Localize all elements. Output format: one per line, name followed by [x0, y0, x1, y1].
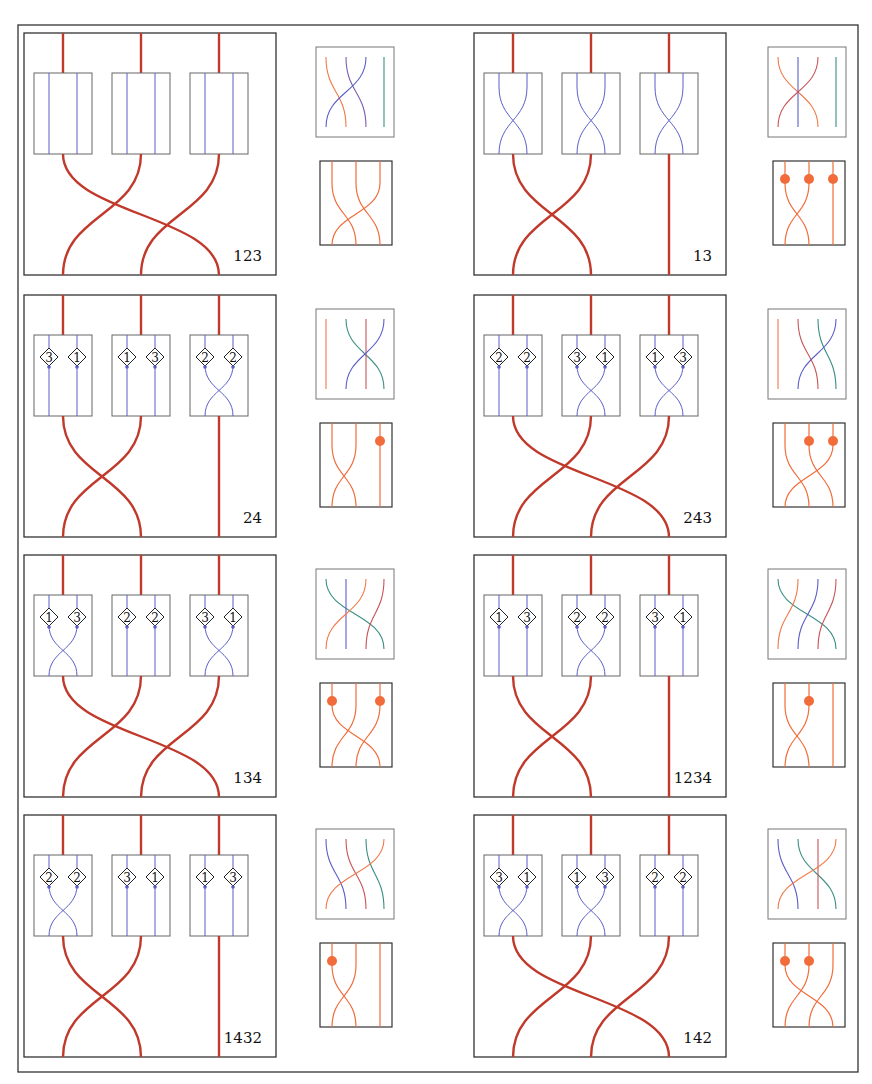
- tangle-box-border: [562, 335, 620, 416]
- tangle-box-border: [34, 595, 92, 676]
- tangle-box-border: [640, 73, 698, 154]
- badge-dot: [153, 885, 157, 889]
- tangle-box: 31: [484, 855, 542, 936]
- panel-243: 223113243: [474, 295, 846, 537]
- badge-dot: [47, 625, 51, 629]
- orange-dot-icon: [375, 696, 385, 706]
- tangle-box-border: [484, 855, 542, 936]
- badge-number: 1: [229, 611, 237, 625]
- tangle-box: 31: [640, 595, 698, 676]
- tangle-box-border: [190, 335, 248, 416]
- tangle-box-border: [34, 855, 92, 936]
- tangle-box-border: [484, 335, 542, 416]
- badge-dot: [575, 365, 579, 369]
- panel-142: 311322142: [474, 815, 846, 1057]
- tangle-box-border: [112, 595, 170, 676]
- badge-number: 3: [229, 871, 237, 885]
- tangle-box-border: [562, 855, 620, 936]
- badge-dot: [525, 885, 529, 889]
- tangle-box-border: [34, 335, 92, 416]
- panel-label: 24: [243, 509, 262, 527]
- tangle-box: 31: [34, 335, 92, 416]
- badge-number: 1: [73, 351, 81, 365]
- badge-number: 3: [201, 611, 209, 625]
- badge-dot: [497, 365, 501, 369]
- badge-dot: [125, 365, 129, 369]
- badge-number: 2: [229, 351, 237, 365]
- badge-number: 1: [523, 871, 531, 885]
- panel-24: 31132224: [24, 295, 394, 537]
- small-braid-box: [768, 47, 846, 137]
- orange-dot-icon: [804, 696, 814, 706]
- badge-number: 2: [201, 351, 209, 365]
- badge-dot: [75, 625, 79, 629]
- panel-1234: 1322311234: [474, 555, 846, 797]
- badge-dot: [525, 365, 529, 369]
- tangle-box-border: [190, 73, 248, 154]
- tangle-box-border: [562, 73, 620, 154]
- orange-dot-icon: [327, 956, 337, 966]
- badge-dot: [153, 625, 157, 629]
- tangle-box: [640, 73, 698, 154]
- tangle-box: 22: [484, 335, 542, 416]
- badge-number: 2: [651, 871, 659, 885]
- badge-dot: [203, 885, 207, 889]
- badge-number: 1: [601, 351, 609, 365]
- tangle-box: 13: [562, 855, 620, 936]
- badge-dot: [231, 885, 235, 889]
- orange-dot-icon: [780, 174, 790, 184]
- badge-number: 2: [73, 871, 81, 885]
- tangle-box-border: [562, 595, 620, 676]
- panel-label: 123: [233, 247, 262, 265]
- orange-dot-icon: [804, 436, 814, 446]
- tangle-box: [34, 73, 92, 154]
- figure-canvas: 1231331132224223113243132231134132231123…: [0, 0, 872, 1084]
- badge-number: 1: [651, 351, 659, 365]
- badge-dot: [681, 885, 685, 889]
- tangle-box: 13: [190, 855, 248, 936]
- tangle-box: [484, 73, 542, 154]
- badge-dot: [203, 365, 207, 369]
- tangle-box-border: [190, 855, 248, 936]
- panel-123: 123: [24, 33, 394, 275]
- orange-dot-icon: [804, 174, 814, 184]
- badge-dot: [575, 885, 579, 889]
- tangle-box: 22: [190, 335, 248, 416]
- tangle-box-border: [640, 595, 698, 676]
- badge-dot: [497, 885, 501, 889]
- tangle-box: 31: [562, 335, 620, 416]
- tangle-box: 31: [112, 855, 170, 936]
- badge-number: 1: [201, 871, 209, 885]
- tangle-box: 22: [112, 595, 170, 676]
- orange-dot-icon: [828, 174, 838, 184]
- badge-number: 1: [495, 611, 503, 625]
- badge-number: 1: [679, 611, 687, 625]
- orange-dot-icon: [828, 436, 838, 446]
- panel-134: 132231134: [24, 555, 394, 797]
- tangle-box-border: [112, 335, 170, 416]
- badge-dot: [681, 365, 685, 369]
- badge-dot: [203, 625, 207, 629]
- orange-dot-icon: [327, 696, 337, 706]
- badge-dot: [497, 625, 501, 629]
- tangle-box: [112, 73, 170, 154]
- badge-number: 2: [573, 611, 581, 625]
- badge-dot: [231, 625, 235, 629]
- badge-number: 3: [523, 611, 531, 625]
- badge-number: 2: [495, 351, 503, 365]
- badge-dot: [603, 365, 607, 369]
- badge-number: 2: [601, 611, 609, 625]
- badge-dot: [153, 365, 157, 369]
- badge-dot: [75, 885, 79, 889]
- orange-dot-icon: [375, 436, 385, 446]
- badge-number: 3: [123, 871, 131, 885]
- tangle-box: 13: [112, 335, 170, 416]
- tangle-box: 13: [484, 595, 542, 676]
- badge-number: 3: [601, 871, 609, 885]
- badge-dot: [231, 365, 235, 369]
- badge-number: 1: [45, 611, 53, 625]
- tangle-box: [562, 73, 620, 154]
- badge-number: 1: [573, 871, 581, 885]
- badge-number: 3: [679, 351, 687, 365]
- badge-dot: [47, 885, 51, 889]
